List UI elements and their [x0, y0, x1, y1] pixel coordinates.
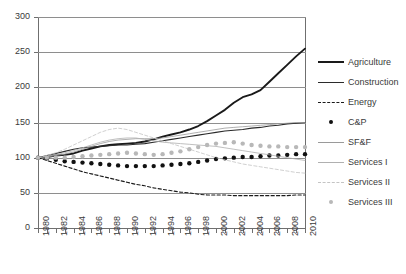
data-point: [232, 140, 236, 144]
data-point: [134, 151, 138, 155]
legend-item-construction[interactable]: Construction: [318, 72, 404, 92]
data-point: [258, 144, 262, 148]
legend-swatch-icon: [318, 135, 344, 149]
data-point: [223, 141, 227, 145]
legend-item-agriculture[interactable]: Agriculture: [318, 52, 404, 72]
legend-swatch-icon: [318, 155, 344, 169]
data-point: [249, 155, 253, 159]
chart-figure: 300250200150100500 198019821984198619881…: [0, 0, 406, 274]
data-point: [249, 143, 253, 147]
legend-item-services-iii[interactable]: Services III: [318, 192, 404, 212]
data-point: [98, 162, 102, 166]
data-point: [134, 164, 138, 168]
data-point: [152, 153, 156, 157]
legend-item-c-p[interactable]: C&P: [318, 112, 404, 132]
data-point: [205, 158, 209, 162]
data-point: [276, 144, 280, 148]
data-point: [178, 149, 182, 153]
data-point: [36, 155, 40, 159]
legend-item-energy[interactable]: Energy: [318, 92, 404, 112]
data-point: [178, 162, 182, 166]
legend-label: Agriculture: [344, 57, 391, 67]
data-point: [54, 155, 58, 159]
data-point: [169, 163, 173, 167]
data-point: [160, 152, 164, 156]
data-point: [187, 161, 191, 165]
data-point: [125, 164, 129, 168]
data-point: [71, 155, 75, 159]
legend-label: Services I: [344, 157, 388, 167]
data-point: [187, 147, 191, 151]
legend-label: Services II: [344, 177, 390, 187]
data-point: [116, 163, 120, 167]
series-line: [38, 138, 305, 161]
data-point: [196, 145, 200, 149]
data-point: [205, 143, 209, 147]
legend-item-services-ii[interactable]: Services II: [318, 172, 404, 192]
data-point: [143, 152, 147, 156]
data-point: [214, 141, 218, 145]
data-point: [160, 163, 164, 167]
data-point: [89, 153, 93, 157]
data-point: [303, 145, 307, 149]
series-services-i: [38, 138, 305, 161]
series-line: [38, 49, 305, 158]
data-point: [62, 155, 66, 159]
legend-item-sf-f[interactable]: SF&F: [318, 132, 404, 152]
data-point: [80, 154, 84, 158]
legend-label: Services III: [344, 197, 393, 207]
data-point: [294, 145, 298, 149]
legend-swatch-icon: [318, 115, 344, 129]
legend-label: SF&F: [344, 137, 371, 147]
data-point: [89, 161, 93, 165]
data-point: [267, 153, 271, 157]
legend-swatch-icon: [318, 95, 344, 109]
data-point: [196, 160, 200, 164]
data-point: [285, 153, 289, 157]
data-point: [98, 153, 102, 157]
data-point: [241, 155, 245, 159]
legend-label: Energy: [344, 97, 377, 107]
legend-swatch-icon: [318, 55, 344, 69]
legend-swatch-icon: [318, 75, 344, 89]
data-point: [258, 154, 262, 158]
data-point: [107, 163, 111, 167]
legend-swatch-icon: [318, 195, 344, 209]
data-point: [241, 141, 245, 145]
data-point: [285, 145, 289, 149]
legend-item-services-i[interactable]: Services I: [318, 152, 404, 172]
data-point: [143, 164, 147, 168]
data-point: [80, 160, 84, 164]
data-point: [71, 160, 75, 164]
data-point: [116, 151, 120, 155]
series-agriculture: [38, 49, 305, 158]
data-point: [107, 152, 111, 156]
data-point: [125, 151, 129, 155]
legend-swatch-icon: [318, 175, 344, 189]
data-point: [45, 155, 49, 159]
legend: AgricultureConstructionEnergyC&PSF&FServ…: [318, 52, 404, 212]
data-point: [232, 155, 236, 159]
legend-label: Construction: [344, 77, 399, 87]
legend-label: C&P: [344, 117, 367, 127]
data-point: [294, 152, 298, 156]
data-point: [152, 164, 156, 168]
data-point: [169, 151, 173, 155]
data-point: [276, 153, 280, 157]
data-point: [303, 152, 307, 156]
data-point: [267, 144, 271, 148]
